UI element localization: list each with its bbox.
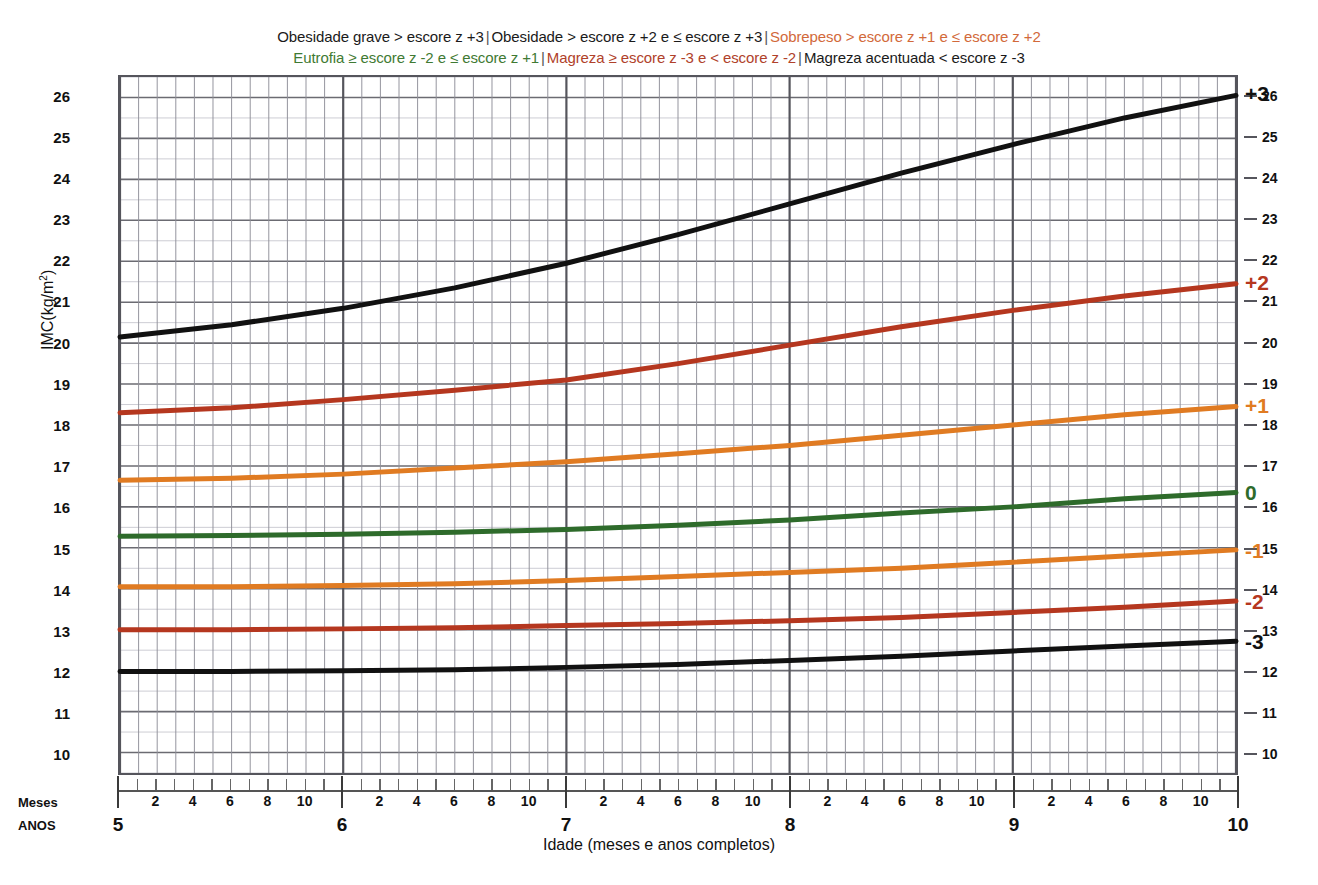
plot-area xyxy=(118,75,1238,775)
y-axis-tick-label-right: 18 xyxy=(1262,417,1302,433)
x-axis-month-tick xyxy=(697,779,698,790)
y-axis-tick-label: 18 xyxy=(30,417,70,434)
y-axis-tick-label: 14 xyxy=(30,581,70,598)
x-axis-month-tick xyxy=(323,779,324,790)
y-axis-tick-mark xyxy=(1244,671,1257,673)
x-axis-month-tick xyxy=(193,779,194,790)
x-axis-month-tick xyxy=(958,779,959,790)
x-axis-month-tick xyxy=(1033,779,1034,790)
legend-segment: Magreza acentuada < escore z -3 xyxy=(804,49,1025,66)
x-axis-year-tick xyxy=(117,776,120,808)
legend-separator: | xyxy=(796,49,804,66)
y-axis-tick-label: 26 xyxy=(30,87,70,104)
y-axis-tick-label: 22 xyxy=(30,252,70,269)
x-axis-month-tick xyxy=(659,779,660,790)
x-axis-month-tick xyxy=(977,779,978,790)
x-axis-month-label: 6 xyxy=(674,793,682,809)
x-axis-month-tick xyxy=(286,779,287,790)
legend-separator: | xyxy=(762,28,770,45)
x-axis-month-tick xyxy=(155,779,156,790)
x-axis-year-tick xyxy=(789,776,792,808)
y-axis-tick-mark xyxy=(1244,383,1257,385)
x-axis-month-tick xyxy=(939,779,940,790)
legend-segment: Obesidade > escore z +2 e ≤ escore z +3 xyxy=(491,28,762,45)
x-axis-month-tick xyxy=(230,779,231,790)
x-axis-month-label: 10 xyxy=(745,793,761,809)
x-axis-month-tick xyxy=(865,779,866,790)
x-axis-year-tick xyxy=(1013,776,1016,808)
x-axis-month-tick xyxy=(771,779,772,790)
x-axis-month-label: 10 xyxy=(969,793,985,809)
curve-+1 xyxy=(120,407,1236,481)
x-axis-month-tick xyxy=(1163,779,1164,790)
x-axis-month-tick xyxy=(1107,779,1108,790)
x-axis-month-tick xyxy=(1145,779,1146,790)
y-axis-tick-label-right: 10 xyxy=(1262,746,1302,762)
x-axis-month-label: 2 xyxy=(375,793,383,809)
x-axis-month-label: 8 xyxy=(263,793,271,809)
x-axis-month-tick xyxy=(585,779,586,790)
y-axis-tick-label-right: 15 xyxy=(1262,541,1302,557)
y-axis-tick-label: 16 xyxy=(30,499,70,516)
x-axis-month-tick xyxy=(379,779,380,790)
x-axis-title: Idade (meses e anos completos) xyxy=(0,836,1318,854)
z-score-label: +3 xyxy=(1245,82,1269,106)
y-axis-tick-label-right: 21 xyxy=(1262,293,1302,309)
x-axis-month-label: 6 xyxy=(898,793,906,809)
x-axis-month-tick xyxy=(1219,779,1220,790)
y-axis-tick-mark xyxy=(1244,712,1257,714)
y-axis-tick-label: 21 xyxy=(30,293,70,310)
x-axis-year-label: 7 xyxy=(561,814,572,836)
x-axis-month-label: 6 xyxy=(226,793,234,809)
y-axis-tick-label-right: 16 xyxy=(1262,499,1302,515)
x-axis-month-label: 8 xyxy=(711,793,719,809)
x-axis-month-label: 2 xyxy=(599,793,607,809)
curve-+2 xyxy=(120,284,1236,413)
x-axis-month-tick xyxy=(361,779,362,790)
x-axis-month-tick xyxy=(995,779,996,790)
x-axis-month-tick xyxy=(622,779,623,790)
x-axis-month-tick xyxy=(305,779,306,790)
x-axis-month-tick xyxy=(827,779,828,790)
x-axis-month-tick xyxy=(1182,779,1183,790)
x-axis-month-label: 10 xyxy=(1193,793,1209,809)
z-score-label: -2 xyxy=(1245,590,1264,614)
y-axis-tick-label-right: 14 xyxy=(1262,582,1302,598)
x-axis-month-tick xyxy=(1126,779,1127,790)
x-axis-month-label: 8 xyxy=(1159,793,1167,809)
x-axis-month-label: 10 xyxy=(521,793,537,809)
x-axis-month-tick xyxy=(473,779,474,790)
x-axis-month-tick xyxy=(1089,779,1090,790)
x-axis-month-label: 6 xyxy=(450,793,458,809)
x-axis-month-label: 4 xyxy=(637,793,645,809)
x-axis-month-tick xyxy=(1070,779,1071,790)
y-axis-tick-label-right: 25 xyxy=(1262,129,1302,145)
curve--1 xyxy=(120,550,1236,587)
y-axis-tick-label: 10 xyxy=(30,746,70,763)
x-axis-month-tick xyxy=(641,779,642,790)
legend-line-1: Obesidade grave > escore z +3|Obesidade … xyxy=(0,26,1318,47)
x-axis-month-tick xyxy=(454,779,455,790)
x-axis-month-label: 4 xyxy=(413,793,421,809)
legend-separator: | xyxy=(539,49,547,66)
x-axis-month-label: 4 xyxy=(861,793,869,809)
z-score-label: +2 xyxy=(1245,271,1269,295)
z-score-label: -1 xyxy=(1245,539,1264,563)
x-axis-month-tick xyxy=(510,779,511,790)
legend-line-2: Eutrofia ≥ escore z -2 e ≤ escore z +1|M… xyxy=(0,47,1318,68)
curve-0 xyxy=(120,493,1236,537)
y-axis-tick-label-right: 19 xyxy=(1262,376,1302,392)
y-axis-tick-label: 15 xyxy=(30,540,70,557)
y-axis-tick-mark xyxy=(1244,753,1257,755)
legend-segment: Obesidade grave > escore z +3 xyxy=(277,28,483,45)
x-axis-month-label: 4 xyxy=(1085,793,1093,809)
x-axis-month-label: 2 xyxy=(151,793,159,809)
y-axis-tick-mark xyxy=(1244,465,1257,467)
x-axis-year-label: 5 xyxy=(113,814,124,836)
y-axis-tick-mark xyxy=(1244,259,1257,261)
y-axis-tick-mark xyxy=(1244,177,1257,179)
y-axis-tick-mark xyxy=(1244,300,1257,302)
x-axis-month-tick xyxy=(883,779,884,790)
y-axis-tick-label-right: 24 xyxy=(1262,170,1302,186)
x-axis-month-tick xyxy=(902,779,903,790)
